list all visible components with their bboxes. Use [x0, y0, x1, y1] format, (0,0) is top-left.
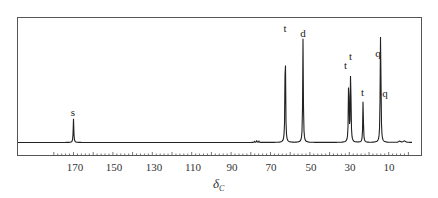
x-axis-title-subscript: C — [219, 184, 225, 193]
tick-label-110: 110 — [185, 161, 202, 173]
peak-label-t-62: t — [283, 22, 286, 34]
tick-label-10: 10 — [384, 161, 396, 173]
tick-label-170: 170 — [67, 161, 84, 173]
tick-label-70: 70 — [266, 161, 278, 173]
peak-label-t-30: t — [344, 59, 347, 71]
peak-label-q-14a: q — [375, 47, 381, 59]
tick-label-150: 150 — [106, 161, 123, 173]
tick-label-130: 130 — [146, 161, 163, 173]
peak-label-q-14b: q — [382, 87, 388, 99]
tick-label-90: 90 — [227, 161, 239, 173]
tick-label-50: 50 — [306, 161, 318, 173]
tick-label-30: 30 — [345, 161, 357, 173]
peak-label-s-170: s — [71, 106, 75, 118]
peak-label-d-53: d — [300, 27, 306, 39]
peak-label-t-29: t — [349, 50, 352, 62]
peak-label-t-23: t — [361, 86, 364, 98]
x-axis-title: δC — [213, 176, 225, 193]
c13-nmr-spectrum-chart: s t d t t t q q 170 150 130 110 90 70 50… — [0, 0, 438, 198]
spectrum-trace — [18, 37, 412, 143]
peak-labels: s t d t t t q q — [71, 22, 388, 118]
x-axis-tick-labels: 170 150 130 110 90 70 50 30 10 — [67, 161, 395, 173]
x-axis-ticks — [54, 152, 409, 156]
